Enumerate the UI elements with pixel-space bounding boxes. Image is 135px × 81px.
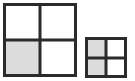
large-cell-top-left xyxy=(6,6,40,40)
small-square-grid xyxy=(88,40,124,75)
large-cell-bottom-left xyxy=(6,40,40,74)
large-cell-top-right xyxy=(40,6,74,40)
small-cell-top-left xyxy=(88,40,106,58)
large-cell-bottom-right xyxy=(40,40,74,74)
figure-canvas xyxy=(0,0,135,81)
large-square-grid xyxy=(6,6,74,74)
small-cell-bottom-left xyxy=(88,58,106,76)
small-cell-bottom-right xyxy=(106,58,124,76)
small-cell-top-right xyxy=(106,40,124,58)
small-square-figure xyxy=(85,37,127,78)
large-square-figure xyxy=(3,3,77,77)
